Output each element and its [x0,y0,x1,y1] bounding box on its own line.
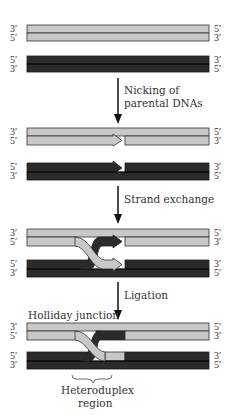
label-5prime: 5′ [10,331,17,341]
label-5prime: 5′ [10,136,17,146]
heteroduplex-brace [72,375,112,383]
arrow-nicking [114,78,122,124]
label-3prime: 3′ [10,360,17,370]
step-label-ligation: Ligation [124,289,168,301]
label-3prime: 3′ [214,136,221,146]
panel-strand-exchange [27,229,209,277]
label-5prime: 5′ [214,268,221,278]
heteroduplex-label-line1: Heteroduplex [61,384,134,396]
label-5prime: 5′ [214,360,221,370]
label-5prime: 5′ [10,33,17,43]
label-5prime: 5′ [10,237,17,247]
heteroduplex-label-line2: region [78,397,112,409]
label-5prime: 5′ [214,64,221,74]
panel-parental-dnas [27,25,209,72]
step-label-strand-exchange: Strand exchange [124,193,214,205]
holliday-junction-label: Holliday junction [28,309,119,321]
arrow-strand-exchange [114,186,122,224]
label-3prime: 3′ [214,33,221,43]
step-label-nicking-line1: Nicking of [124,84,179,96]
label-3prime: 3′ [214,237,221,247]
step-label-nicking-line2: parental DNAs [124,97,203,109]
label-3prime: 3′ [10,64,17,74]
panel-nicked-dnas [27,128,209,180]
recombination-diagram [0,0,236,415]
label-3prime: 3′ [10,171,17,181]
panel-holliday-junction [27,323,209,369]
label-5prime: 5′ [214,171,221,181]
label-3prime: 3′ [10,268,17,278]
label-3prime: 3′ [214,331,221,341]
